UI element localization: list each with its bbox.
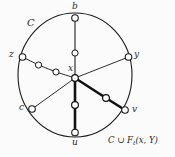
figure-container: C b y v u c z x C ∪ Ft(x, Y) (0, 0, 175, 157)
label-vertex-y: y (134, 50, 139, 59)
label-vertex-v: v (132, 105, 137, 114)
vertex-y (125, 54, 132, 61)
label-vertex-z: z (9, 50, 14, 59)
internal-vertex-on-path-x-z-outer (35, 62, 41, 68)
label-vertex-b: b (72, 2, 78, 11)
vertex-b (72, 15, 79, 22)
caption-function-arguments: (x, Y) (135, 135, 157, 145)
path-x-to-v-bold (75, 78, 125, 110)
label-vertex-c: c (19, 103, 24, 112)
figure-caption: C ∪ Ft(x, Y) (108, 136, 158, 146)
internal-vertex-on-path-x-z-inner (53, 69, 59, 75)
label-vertex-x: x (68, 64, 73, 73)
label-vertex-u: u (72, 138, 78, 147)
path-x-to-y (75, 57, 129, 78)
internal-vertex-on-path-x-u (72, 102, 79, 109)
vertex-u (72, 129, 79, 136)
label-cycle-C: C (27, 18, 35, 28)
caption-union-operator: ∪ (115, 135, 128, 145)
vertex-c (29, 106, 36, 113)
internal-vertex-on-path-x-b (72, 50, 78, 56)
vertex-v (122, 107, 129, 114)
vertex-x-center (72, 75, 79, 82)
vertex-z (19, 54, 26, 61)
path-x-to-c (32, 78, 75, 109)
internal-vertex-on-path-x-v (103, 95, 110, 102)
